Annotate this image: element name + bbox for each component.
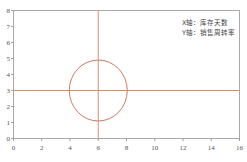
quadrant-chart: 0 1 2 3 4 5 6 7 8 0 2 4 6 8 10 12 14 16 [0, 0, 247, 162]
y-tick-4: 4 [7, 71, 11, 79]
y-tick-labels: 0 1 2 3 4 5 6 7 8 [7, 7, 11, 143]
x-tick-labels: 0 2 4 6 8 10 12 14 16 [12, 144, 244, 152]
legend-y-axis: Y轴：销售周转率 [181, 28, 235, 37]
y-tick-2: 2 [7, 103, 11, 111]
y-tick-3: 3 [7, 87, 11, 95]
x-tick-12: 12 [180, 144, 188, 152]
y-tick-6: 6 [7, 39, 11, 47]
y-tick-1: 1 [7, 119, 11, 127]
x-tick-2: 2 [40, 144, 44, 152]
x-tick-4: 4 [68, 144, 72, 152]
legend-x-axis: X轴：库存天数 [182, 18, 228, 27]
x-tick-6: 6 [97, 144, 101, 152]
y-tick-8: 8 [7, 7, 11, 15]
x-tick-14: 14 [208, 144, 216, 152]
x-tick-10: 10 [151, 144, 159, 152]
y-tick-5: 5 [7, 55, 11, 63]
x-tick-8: 8 [125, 144, 129, 152]
x-tick-0: 0 [12, 144, 16, 152]
y-tick-0: 0 [7, 135, 11, 143]
axis-legend: X轴：库存天数 Y轴：销售周转率 [181, 18, 235, 37]
x-tick-16: 16 [236, 144, 244, 152]
y-tick-7: 7 [7, 23, 11, 31]
